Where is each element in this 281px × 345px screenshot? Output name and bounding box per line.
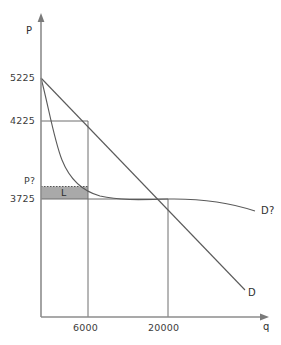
x-tick-label-20000: 20000 bbox=[148, 323, 179, 333]
y-tick-label-5225: 5225 bbox=[10, 73, 35, 83]
plot-canvas bbox=[0, 0, 281, 345]
curve-label-D: D bbox=[248, 288, 256, 298]
linear-demand-curve-D bbox=[41, 78, 245, 290]
x-axis-arrow-icon bbox=[260, 314, 269, 321]
y-tick-label-3725: 3725 bbox=[10, 194, 35, 204]
y-tick-label-price-unknown: P? bbox=[24, 176, 35, 186]
y-tick-label-4225: 4225 bbox=[10, 116, 35, 126]
x-axis-label: q bbox=[263, 322, 270, 332]
y-axis-label: P bbox=[26, 26, 32, 36]
demand-curve-figure: P q 5225 4225 P? 3725 6000 20000 D? D L bbox=[0, 0, 281, 345]
y-axis-arrow-icon bbox=[38, 13, 45, 22]
x-tick-label-6000: 6000 bbox=[73, 323, 98, 333]
curve-label-Dq: D? bbox=[261, 206, 274, 216]
loss-region-label: L bbox=[61, 188, 67, 198]
